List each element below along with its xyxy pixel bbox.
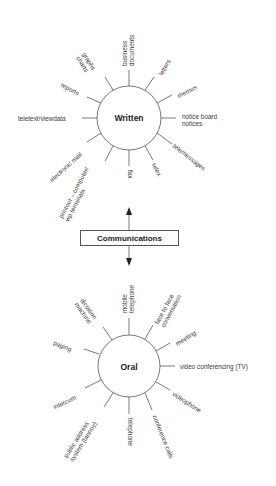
label-fax: fax: [127, 170, 134, 179]
label-teletext: teletext/viewdata: [18, 115, 66, 122]
oral-hub-label: Oral: [120, 362, 137, 372]
communications-box: Communications: [80, 230, 179, 246]
written-hub-label: Written: [114, 113, 143, 123]
label-mobile-telephone: mobiletelephone: [121, 285, 135, 313]
label-video-conferencing: video conferencing (TV): [180, 363, 248, 370]
arrow-up-icon: [126, 207, 132, 215]
label-business-documents: businessdocuments: [121, 35, 135, 66]
arrow-down-icon: [126, 258, 132, 266]
label-notice-board: notice boardnotices: [182, 113, 217, 127]
label-telephone: telephone: [127, 418, 134, 446]
